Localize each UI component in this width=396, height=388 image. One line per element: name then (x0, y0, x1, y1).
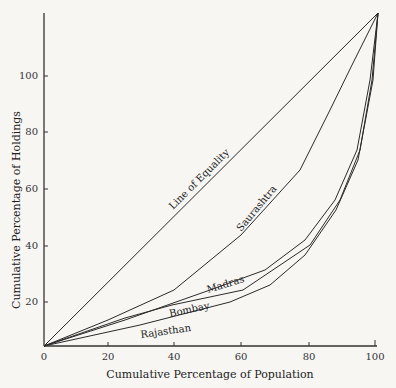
svg-text:40: 40 (25, 240, 38, 251)
svg-text:40: 40 (168, 351, 181, 362)
svg-text:100: 100 (365, 351, 384, 362)
svg-text:100: 100 (19, 70, 38, 81)
svg-text:60: 60 (25, 183, 38, 194)
label-line-of-equality: Line of Equality (167, 147, 232, 212)
x-ticks (108, 340, 375, 346)
svg-text:80: 80 (25, 126, 38, 137)
label-rajasthan: Rajasthan (140, 322, 192, 340)
svg-text:20: 20 (102, 351, 115, 362)
line-of-equality (44, 13, 378, 346)
svg-text:60: 60 (235, 351, 248, 362)
y-axis-title: Cumulative Percentage of Holdings (10, 111, 23, 309)
x-axis-title: Cumulative Percentage of Population (106, 368, 313, 381)
svg-text:0: 0 (41, 351, 47, 362)
svg-text:80: 80 (303, 351, 316, 362)
lorenz-chart: 0 20 40 60 80 100 20 40 60 80 100 Cumula… (0, 0, 396, 388)
label-saurashtra: Saurashtra (234, 183, 279, 233)
svg-text:20: 20 (25, 296, 38, 307)
x-tick-labels: 0 20 40 60 80 100 (41, 351, 385, 362)
label-madras: Madras (205, 273, 245, 295)
